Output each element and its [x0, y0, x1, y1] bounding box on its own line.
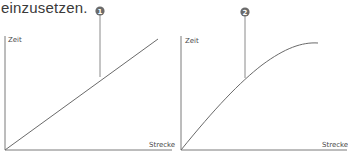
- chart-2-curve: Zeit Strecke 2: [181, 7, 348, 150]
- chart-2-data-curve: [181, 43, 318, 150]
- figure: Zeit Strecke 1 Zeit Strecke 2: [0, 0, 348, 155]
- chart-1-linear: Zeit Strecke 1: [5, 6, 175, 150]
- marker-2-number: 2: [243, 9, 248, 17]
- marker-1-number: 1: [98, 8, 103, 16]
- chart-1-x-label: Strecke: [149, 141, 175, 149]
- chart-2-x-label: Strecke: [322, 141, 348, 149]
- marker-2-badge: 2: [240, 7, 249, 16]
- chart-2-y-label: Zeit: [185, 37, 199, 45]
- chart-1-data-line: [5, 39, 158, 150]
- marker-1-badge: 1: [95, 6, 104, 15]
- chart-1-y-label: Zeit: [8, 36, 22, 44]
